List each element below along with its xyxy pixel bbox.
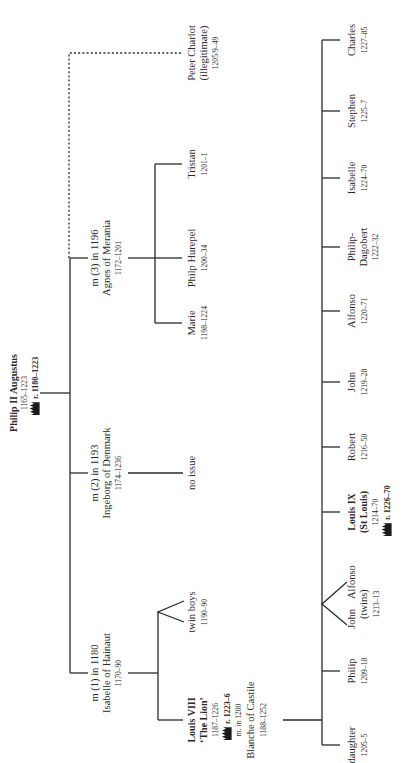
person-name: Robert bbox=[346, 433, 357, 462]
person-dates: 1205–5 bbox=[360, 733, 369, 756]
person-epithet: (St Louis) bbox=[358, 491, 370, 533]
person-name: twin boys bbox=[186, 591, 197, 632]
person-name: Marie bbox=[186, 310, 197, 335]
twins-note: (twins) bbox=[358, 589, 370, 619]
person-dates: 1205/9–49 bbox=[211, 37, 220, 70]
spouse-dates: 1174–1236 bbox=[114, 456, 123, 490]
person-name: Isabelle bbox=[346, 161, 357, 194]
person-epithet: ‘The Lion’ bbox=[198, 697, 209, 743]
louis-viii-children: daughter 1205–5 Philip 1209–18 Alfonso J… bbox=[346, 24, 392, 763]
reign-line: r. 1180–1223 bbox=[30, 357, 41, 415]
person-dates: 1224–70 bbox=[360, 165, 369, 192]
reign-dates: r. 1180–1223 bbox=[31, 357, 40, 399]
child-twins-alfonso-john: Alfonso John (twins) 1213–13 bbox=[346, 565, 381, 629]
person-name: Tristan bbox=[186, 149, 197, 179]
person-dates: 1190–90 bbox=[200, 599, 209, 625]
reign-dates: r. 1223–6 bbox=[223, 693, 232, 724]
child-robert: Robert 1216–50 bbox=[346, 433, 369, 462]
reign-line: r. 1223–6 bbox=[222, 693, 233, 740]
person-dates: 1165–1223 bbox=[20, 376, 29, 410]
family-tree-diagram: Philip II Augustus 1165–1223 r. 1180–122… bbox=[0, 0, 407, 763]
person-name: Philip bbox=[346, 658, 357, 683]
person-name: daughter bbox=[346, 726, 357, 763]
person-name: Alfonso bbox=[346, 565, 357, 599]
person-name: Charles bbox=[346, 24, 357, 56]
crown-icon bbox=[382, 523, 392, 536]
marriage-label: m (1) in 1180 bbox=[89, 644, 101, 701]
person-dates: 1216–50 bbox=[360, 434, 369, 461]
person-louis-viii: Louis VIII ‘The Lion’ 1187–1226 r. 1223–… bbox=[186, 681, 268, 759]
child-tristan: Tristan 1201–1 bbox=[186, 149, 209, 179]
person-dates: 1225–7 bbox=[360, 99, 369, 122]
child-alfonso: Alfonso 1220–71 bbox=[346, 294, 369, 328]
person-dates: 1213–13 bbox=[372, 591, 381, 618]
spouse-name: Isabelle of Hainaut bbox=[101, 633, 112, 713]
spouse-dates: 1172–1201 bbox=[114, 241, 123, 275]
spouse-dates: 1188–1252 bbox=[259, 703, 268, 737]
child-marie: Marie 1198–1224 bbox=[186, 306, 209, 340]
person-philip-ii-augustus: Philip II Augustus 1165–1223 r. 1180–122… bbox=[8, 354, 40, 432]
child-daughter: daughter 1205–5 bbox=[346, 726, 369, 763]
person-dates: 1187–1226 bbox=[211, 703, 220, 737]
person-name: Louis IX bbox=[346, 492, 357, 530]
spouse-name: Ingeborg of Denmark bbox=[101, 427, 112, 519]
no-issue-label: no issue bbox=[186, 456, 197, 490]
marriage-label: m (3) in 1196 bbox=[89, 229, 101, 286]
person-name: Louis VIII bbox=[186, 697, 197, 742]
person-name: Alfonso bbox=[346, 294, 357, 328]
reign-line: r. 1226–70 bbox=[382, 485, 393, 536]
person-name: Stephen bbox=[346, 93, 357, 128]
person-name: John bbox=[346, 371, 357, 392]
child-louis-ix: Louis IX (St Louis) 1214–70 r. 1226–70 bbox=[346, 485, 392, 536]
person-dates: 1201–1 bbox=[200, 152, 209, 175]
connector-lines bbox=[40, 40, 347, 745]
person-dates: 1214–70 bbox=[371, 499, 380, 526]
spouse-name: Blanche of Castile bbox=[245, 681, 256, 759]
reign-dates: r. 1226–70 bbox=[383, 485, 392, 520]
child-twin-boys: twin boys 1190–90 bbox=[186, 591, 209, 632]
person-dates: 1220–71 bbox=[360, 298, 369, 325]
person-name: Philip- bbox=[346, 232, 357, 261]
person-dates: 1227–85 bbox=[360, 27, 369, 54]
person-peter-charlot: Peter Charlot (illegitimate) 1205/9–49 bbox=[186, 25, 220, 81]
person-dates: 1219–28 bbox=[360, 369, 369, 396]
person-dates: 1200–34 bbox=[200, 245, 209, 272]
crown-icon bbox=[30, 402, 40, 415]
marriage-label: m. in 1200 bbox=[234, 703, 243, 736]
marriage-label: m (2) in 1193 bbox=[89, 444, 101, 501]
illegitimate-note: (illegitimate) bbox=[198, 25, 210, 80]
person-dates: 1209–18 bbox=[360, 658, 369, 685]
person-dates: 1198–1224 bbox=[200, 306, 209, 340]
child-philip-dagobert: Philip- Dagobert 1222–32 bbox=[346, 227, 380, 266]
child-stephen: Stephen 1225–7 bbox=[346, 93, 369, 128]
marriage-3: m (3) in 1196 Agnes of Merania 1172–1201 bbox=[89, 220, 123, 296]
crown-icon bbox=[222, 727, 232, 740]
person-name: Philip II Augustus bbox=[8, 354, 19, 432]
person-name: Philp Hurepel bbox=[186, 229, 197, 288]
marriage-1: m (1) in 1180 Isabelle of Hainaut 1170–9… bbox=[89, 633, 123, 713]
child-philip: Philip 1209–18 bbox=[346, 658, 369, 685]
person-name-cont: Dagobert bbox=[358, 227, 369, 266]
person-name: Peter Charlot bbox=[186, 25, 197, 81]
spouse-name: Agnes of Merania bbox=[101, 220, 112, 296]
person-name: John bbox=[346, 608, 357, 629]
spouse-dates: 1170–90 bbox=[114, 660, 123, 686]
child-john: John 1219–28 bbox=[346, 369, 369, 396]
person-dates: 1222–32 bbox=[371, 234, 380, 261]
child-isabelle: Isabelle 1224–70 bbox=[346, 161, 369, 194]
child-charles: Charles 1227–85 bbox=[346, 24, 369, 56]
child-philip-hurepel: Philp Hurepel 1200–34 bbox=[186, 229, 209, 288]
